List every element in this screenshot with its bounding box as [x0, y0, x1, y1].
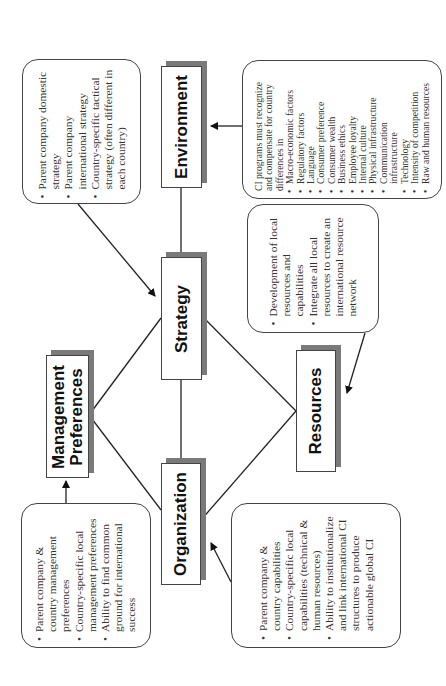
- callout-management-item: Parent company & country management pref…: [33, 510, 73, 632]
- node-environment-label: Environment: [173, 75, 191, 179]
- node-resources: Resources: [296, 350, 336, 472]
- node-management-label-line1: Management: [49, 365, 68, 469]
- node-strategy-label: Strategy: [173, 284, 191, 352]
- callout-environment-item: Communication infrastructure: [378, 69, 399, 184]
- node-organization-label: Organization: [172, 472, 190, 576]
- node-management-label: Management Preferences: [50, 365, 86, 469]
- callout-resources: Development of local resources and capab…: [247, 204, 379, 333]
- line-management-organization: [89, 415, 161, 510]
- callout-organization-item: Ability to institutionalize and link int…: [323, 511, 376, 631]
- callout-environment-item: Raw and human resources: [420, 69, 430, 184]
- callout-organization-item: Country-specific local capabilities (tec…: [283, 511, 323, 631]
- arrow-strategy-callout: [78, 204, 155, 296]
- node-management-preferences: Management Preferences: [46, 355, 89, 478]
- callout-organization-item: Parent company & country capabilities: [257, 511, 283, 631]
- callout-resources-item: Development of local resources and capab…: [267, 211, 307, 316]
- callout-resources-item: Integrate all local resources to create …: [306, 211, 359, 316]
- arrow-organization-callout: [211, 543, 231, 582]
- callout-strategy-item: Parent company international strategy: [62, 64, 88, 189]
- callout-management-item: Ability to find common ground for intern…: [99, 510, 139, 632]
- node-organization: Organization: [161, 463, 201, 585]
- callout-management-item: Country-specific local management prefer…: [73, 510, 99, 632]
- callout-environment-item: Intensity of competition: [410, 69, 420, 184]
- callout-management: Parent company & country management pref…: [21, 503, 151, 648]
- callout-environment: CI programs must recognize and compensat…: [242, 60, 442, 199]
- node-resources-label: Resources: [307, 368, 325, 455]
- node-environment: Environment: [161, 66, 202, 188]
- line-strategy-management: [89, 318, 161, 415]
- callout-environment-intro: CI programs must recognize and compensat…: [254, 69, 285, 191]
- callout-strategy-item: Parent company domestic strategy: [35, 64, 61, 189]
- node-management-label-line2: Preferences: [67, 368, 86, 465]
- node-strategy: Strategy: [161, 257, 202, 380]
- callout-organization: Parent company & country capabilities Co…: [231, 503, 401, 648]
- callout-strategy: Parent company domestic strategy Parent …: [22, 59, 141, 204]
- arrow-resources-callout: [347, 333, 365, 393]
- callout-strategy-item: Country-specific tactical strategy (ofte…: [88, 64, 128, 189]
